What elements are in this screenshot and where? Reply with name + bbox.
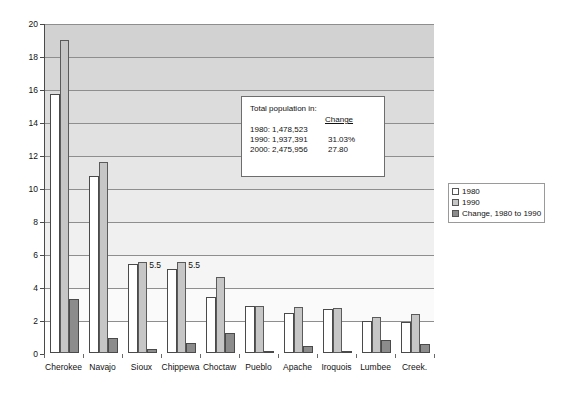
- info-row-year: 2000:: [250, 145, 272, 155]
- bar-navajo-0: [89, 176, 99, 353]
- y-axis-label: 8: [10, 217, 38, 227]
- bar-chippewa-2: [186, 343, 196, 353]
- legend-item-change-1980-to-1990[interactable]: Change, 1980 to 1990: [452, 208, 541, 219]
- bar-pueblo-1: [255, 306, 265, 353]
- info-row-population: 2,475,956: [272, 145, 328, 155]
- x-axis-tick: [239, 354, 240, 358]
- bar-navajo-1: [99, 162, 109, 353]
- y-axis-tick: [40, 288, 44, 289]
- x-axis-label-iroquois: Iroquois: [317, 362, 356, 372]
- info-box-row: 1990:1,937,39131.03%: [250, 135, 376, 145]
- legend-item-label: Change, 1980 to 1990: [462, 209, 541, 218]
- info-box-table: 1980:1,478,5231990:1,937,39131.03%2000:2…: [250, 125, 376, 155]
- x-axis-tick: [44, 354, 45, 358]
- data-label: 5.5: [188, 260, 200, 270]
- bar-lumbee-2: [381, 340, 391, 353]
- legend-item-label: 1990: [462, 198, 480, 207]
- x-axis-tick: [434, 354, 435, 358]
- x-axis-tick: [356, 354, 357, 358]
- chart-figure: 5.55.5 02468101214161820 CherokeeNavajoS…: [0, 0, 570, 401]
- info-box-row: 1980:1,478,523: [250, 125, 376, 135]
- x-axis-label-pueblo: Pueblo: [239, 362, 278, 372]
- x-axis-tick: [317, 354, 318, 358]
- y-axis-label: 12: [10, 151, 38, 161]
- plot-area: 5.55.5: [44, 24, 434, 354]
- y-axis-label: 4: [10, 283, 38, 293]
- bar-iroquois-0: [323, 309, 333, 353]
- bar-chippewa-0: [167, 269, 177, 353]
- bar-apache-2: [303, 346, 313, 353]
- x-axis-label-lumbee: Lumbee: [356, 362, 395, 372]
- x-axis-label-sioux: Sioux: [122, 362, 161, 372]
- x-axis-tick: [83, 354, 84, 358]
- gridline: [45, 90, 434, 91]
- legend-swatch-icon: [452, 210, 459, 217]
- y-axis-label: 20: [10, 19, 38, 29]
- gridline: [45, 24, 434, 25]
- bar-sioux-2: [147, 349, 157, 353]
- y-axis-tick: [40, 321, 44, 322]
- bar-creek-2: [420, 344, 430, 353]
- x-axis-label-choctaw: Choctaw: [200, 362, 239, 372]
- bar-cherokee-0: [50, 94, 60, 353]
- x-axis-tick: [200, 354, 201, 358]
- info-row-year: 1990:: [250, 135, 272, 145]
- bar-creek-0: [401, 322, 411, 353]
- bar-creek-1: [411, 314, 421, 353]
- y-axis-label: 0: [10, 349, 38, 359]
- y-axis-tick: [40, 57, 44, 58]
- y-axis-label: 16: [10, 85, 38, 95]
- y-axis-tick: [40, 90, 44, 91]
- x-axis-label-navajo: Navajo: [83, 362, 122, 372]
- bar-navajo-2: [108, 338, 118, 353]
- info-row-population: 1,937,391: [272, 135, 328, 145]
- y-axis-label: 14: [10, 118, 38, 128]
- legend-item-1990[interactable]: 1990: [452, 197, 541, 208]
- x-axis-label-chippewa: Chippewa: [161, 362, 200, 372]
- plot-shade-band: [45, 57, 434, 90]
- y-axis-label: 2: [10, 316, 38, 326]
- y-axis-label: 6: [10, 250, 38, 260]
- bar-chippewa-1: [177, 262, 187, 353]
- bar-pueblo-0: [245, 306, 255, 353]
- x-axis-tick: [278, 354, 279, 358]
- bar-lumbee-0: [362, 321, 372, 353]
- plot-shade-band: [45, 24, 434, 57]
- y-axis-tick: [40, 123, 44, 124]
- info-row-change: 31.03%: [328, 135, 376, 145]
- bar-iroquois-2: [342, 351, 352, 353]
- x-axis-label-creek: Creek.: [395, 362, 434, 372]
- bar-cherokee-2: [69, 299, 79, 353]
- bar-apache-0: [284, 313, 294, 353]
- legend-item-1980[interactable]: 1980: [452, 186, 541, 197]
- bar-apache-1: [294, 307, 304, 353]
- bar-choctaw-2: [225, 333, 235, 353]
- gridline: [45, 57, 434, 58]
- info-box-row: 2000:2,475,95627.80: [250, 145, 376, 155]
- bar-lumbee-1: [372, 317, 382, 353]
- population-info-box: Total population in: Change 1980:1,478,5…: [241, 96, 385, 177]
- bar-sioux-1: [138, 262, 148, 353]
- y-axis-tick: [40, 156, 44, 157]
- chart-legend[interactable]: 19801990Change, 1980 to 1990: [448, 183, 545, 223]
- y-axis-label: 10: [10, 184, 38, 194]
- y-axis-tick: [40, 189, 44, 190]
- x-axis-tick: [161, 354, 162, 358]
- y-axis-tick: [40, 255, 44, 256]
- bar-choctaw-1: [216, 277, 226, 353]
- x-axis-tick: [122, 354, 123, 358]
- x-axis-label-apache: Apache: [278, 362, 317, 372]
- info-box-heading: Total population in:: [250, 104, 376, 113]
- info-row-year: 1980:: [250, 125, 272, 135]
- legend-item-label: 1980: [462, 187, 480, 196]
- x-axis-tick: [395, 354, 396, 358]
- bar-iroquois-1: [333, 308, 343, 353]
- data-label: 5.5: [149, 260, 161, 270]
- bar-choctaw-0: [206, 297, 216, 353]
- y-axis-tick: [40, 24, 44, 25]
- legend-swatch-icon: [452, 199, 459, 206]
- bar-cherokee-1: [60, 40, 70, 354]
- info-box-change-header: Change: [250, 115, 376, 124]
- chart-title-faint: [150, 0, 430, 14]
- y-axis-tick: [40, 222, 44, 223]
